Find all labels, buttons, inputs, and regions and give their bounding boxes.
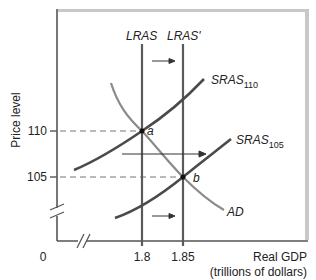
point-b (181, 175, 186, 180)
sras110-label: SRAS110 (211, 73, 258, 90)
economics-chart: LRAS LRAS' SRAS110 SRAS105 AD a b 110 10… (0, 0, 316, 280)
plot-frame-shadow (58, 9, 309, 12)
sras105-subscript: 105 (269, 140, 284, 150)
sras110-curve (74, 79, 204, 170)
plot-frame-right (305, 9, 309, 240)
y-tick-105: 105 (27, 170, 47, 184)
x-axis-sublabel: (trillions of dollars) (210, 265, 307, 279)
y-axis-label: Price level (9, 92, 23, 147)
point-a-label: a (147, 124, 154, 138)
point-b-label: b (193, 171, 200, 185)
x-tick-1-85: 1.85 (171, 250, 195, 264)
sras110-subscript: 110 (244, 80, 258, 90)
sras105-label: SRAS105 (236, 133, 284, 150)
ad-curve (111, 83, 224, 210)
ad-label: AD (226, 205, 244, 219)
lras-label: LRAS (126, 29, 157, 43)
x-tick-1-8: 1.8 (134, 250, 151, 264)
x-tick-0: 0 (40, 250, 47, 264)
sras105-curve (115, 139, 231, 218)
arrow-right-icon (152, 214, 175, 219)
x-axis-label: Real GDP (253, 250, 307, 264)
y-tick-110: 110 (28, 124, 47, 138)
point-a (140, 129, 145, 134)
arrow-right-icon (152, 59, 175, 64)
lras-prime-label: LRAS' (167, 29, 201, 43)
